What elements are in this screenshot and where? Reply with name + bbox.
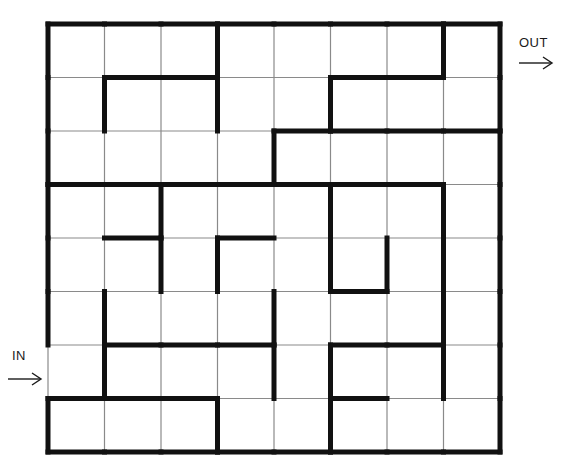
- maze-svg: IN OUT: [0, 0, 561, 470]
- entrance-label: IN: [12, 348, 26, 363]
- entrance-arrow-icon: [8, 373, 41, 385]
- maze-annotations: IN OUT: [8, 35, 552, 385]
- maze-page: IN OUT: [0, 0, 561, 470]
- exit-label: OUT: [519, 35, 548, 50]
- exit-arrow-icon: [519, 57, 552, 69]
- maze-canvas: IN OUT: [0, 0, 561, 470]
